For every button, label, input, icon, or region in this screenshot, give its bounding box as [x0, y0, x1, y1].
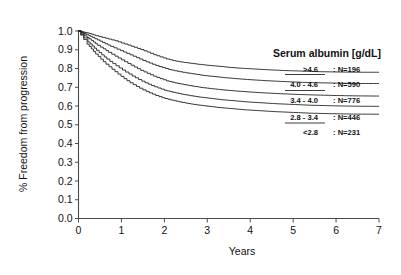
legend-range-4: 2.8 - 3.4	[290, 113, 319, 122]
legend-range-5: <2.8	[303, 128, 318, 137]
x-axis-title: Years	[229, 245, 255, 257]
y-tick-label: 0.9	[58, 43, 73, 55]
y-axis-title: % Freedom from progression	[17, 56, 29, 192]
legend-count-3: : N=776	[333, 96, 360, 105]
x-tick-label: 0	[76, 224, 82, 236]
x-tick-label: 1	[119, 224, 125, 236]
legend-count-2: : N=590	[333, 80, 360, 89]
y-tick-label: 1.0	[58, 25, 73, 37]
y-tick-label: 0.8	[58, 62, 73, 74]
legend-range-1: >4.6	[303, 65, 318, 74]
legend-count-5: : N=231	[333, 128, 361, 137]
y-tick-label: 0.3	[58, 156, 73, 168]
legend-range-3: 3.4 - 4.0	[290, 96, 318, 105]
legend-count-1: : N=196	[333, 65, 360, 74]
y-tick-label: 0.0	[58, 212, 73, 224]
x-tick-label: 4	[247, 224, 253, 236]
x-tick-label: 2	[161, 224, 167, 236]
x-tick-label: 6	[333, 224, 339, 236]
x-tick-label: 7	[376, 224, 382, 236]
y-tick-label: 0.1	[58, 193, 73, 205]
x-tick-label: 5	[290, 224, 296, 236]
y-tick-label: 0.6	[58, 100, 73, 112]
legend-title: Serum albumin [g/dL]	[273, 47, 381, 59]
legend-count-4: : N=446	[333, 113, 360, 122]
legend-range-2: 4.0 - 4.6	[290, 80, 318, 89]
chart-canvas: 1.00.90.80.70.60.50.40.30.20.10.0 012345…	[0, 0, 401, 275]
y-tick-label: 0.4	[58, 137, 73, 149]
kaplan-meier-chart: 1.00.90.80.70.60.50.40.30.20.10.0 012345…	[0, 0, 401, 275]
y-tick-label: 0.7	[58, 81, 73, 93]
x-tick-label: 3	[204, 224, 210, 236]
y-tick-label: 0.5	[58, 118, 73, 130]
y-tick-label: 0.2	[58, 175, 73, 187]
